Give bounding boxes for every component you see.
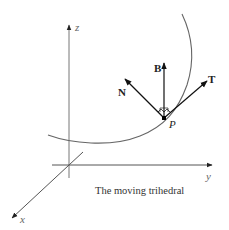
normal-label: N (118, 87, 126, 98)
z-axis-label: z (75, 22, 79, 33)
tangent-label: T (208, 74, 215, 85)
tangent-vector (164, 81, 207, 118)
right-angle-marker-bt (164, 109, 170, 112)
y-axis-label: y (206, 171, 211, 182)
point-p-label: P (169, 119, 176, 130)
figure-caption: The moving trihedral (95, 186, 184, 197)
x-axis (12, 152, 83, 218)
binormal-label: B (154, 63, 161, 74)
moving-trihedral-figure: z y x B T N P The moving trihedral (0, 0, 229, 230)
x-axis-label: x (20, 214, 25, 225)
point-p-marker (162, 116, 166, 120)
right-angle-marker-bn (158, 109, 164, 112)
normal-vector (125, 79, 164, 118)
